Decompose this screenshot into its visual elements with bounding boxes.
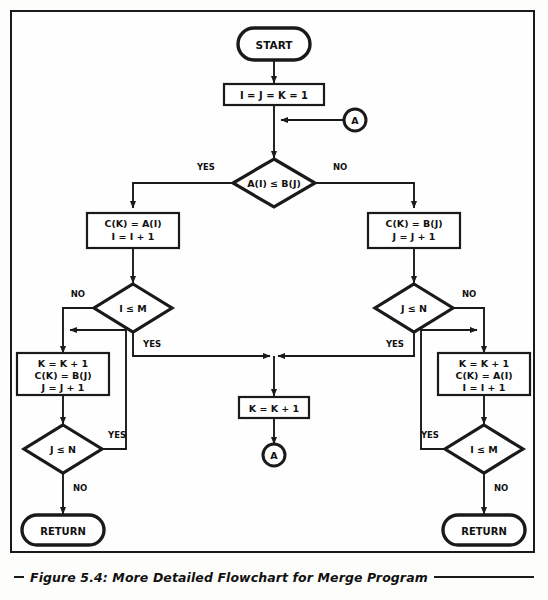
caption-rule-left — [14, 576, 24, 578]
edge-label-no-right2: NO — [494, 483, 508, 493]
init-label: I = J = K = 1 — [240, 90, 308, 101]
node-drain-left[interactable]: K = K + 1 C(K) = B(J) J = J + 1 — [17, 353, 109, 395]
edge-label-yes-left: YES — [142, 339, 161, 349]
figure-caption-bar: Figure 5.4: More Detailed Flowchart for … — [14, 566, 534, 588]
drain-left-line3: J = J + 1 — [41, 382, 85, 393]
node-start[interactable]: START — [238, 28, 310, 60]
node-init[interactable]: I = J = K = 1 — [224, 84, 324, 105]
node-return-right[interactable]: RETURN — [443, 515, 525, 545]
drain-right-line2: C(K) = A(I) — [455, 370, 512, 381]
decision-left2-label: J ≤ N — [49, 444, 76, 455]
figure-caption: Figure 5.4: More Detailed Flowchart for … — [30, 570, 428, 585]
proc-right-line2: J = J + 1 — [392, 231, 436, 242]
node-proc-right[interactable]: C(K) = B(J) J = J + 1 — [368, 213, 460, 248]
flowchart-nodes: START I = J = K = 1 A A(I) ≤ B(J) YES NO — [17, 28, 530, 545]
edge-label-yes-main: YES — [196, 162, 215, 172]
edge-label-yes-right2: YES — [420, 430, 439, 440]
edge-label-yes-left2: YES — [107, 430, 126, 440]
edge-decision-no — [314, 183, 414, 208]
drain-left-line2: C(K) = B(J) — [34, 370, 91, 381]
connector-top-label: A — [351, 115, 359, 126]
node-proc-left[interactable]: C(K) = A(I) I = I + 1 — [87, 213, 179, 248]
bump-k-label: K = K + 1 — [249, 403, 299, 414]
proc-right-line1: C(K) = B(J) — [385, 218, 442, 229]
node-connector-top[interactable]: A — [344, 109, 366, 131]
node-decision-right2[interactable]: I ≤ M — [445, 425, 523, 473]
drain-right-line1: K = K + 1 — [459, 358, 509, 369]
node-decision-left[interactable]: I ≤ M — [94, 284, 172, 332]
node-decision-right[interactable]: J ≤ N — [375, 284, 453, 332]
decision-main-label: A(I) ≤ B(J) — [247, 178, 301, 189]
edge-label-no-right: NO — [462, 289, 476, 299]
drain-right-line3: I = I + 1 — [463, 382, 506, 393]
node-return-left[interactable]: RETURN — [22, 515, 104, 545]
edge-label-yes-right: YES — [385, 339, 404, 349]
decision-right2-label: I ≤ M — [470, 444, 498, 455]
start-label: START — [256, 39, 294, 51]
node-bump-k[interactable]: K = K + 1 — [239, 397, 309, 418]
return-left-label: RETURN — [40, 526, 86, 537]
decision-right-label: J ≤ N — [400, 303, 427, 314]
edge-label-no-left: NO — [71, 289, 85, 299]
caption-rule-right — [434, 576, 534, 578]
figure-page: START I = J = K = 1 A A(I) ≤ B(J) YES NO — [0, 0, 548, 600]
edge-label-no-left2: NO — [73, 483, 87, 493]
flowchart-canvas: START I = J = K = 1 A A(I) ≤ B(J) YES NO — [0, 0, 548, 600]
return-right-label: RETURN — [461, 526, 507, 537]
proc-left-line2: I = I + 1 — [112, 231, 155, 242]
proc-left-line1: C(K) = A(I) — [104, 218, 161, 229]
node-drain-right[interactable]: K = K + 1 C(K) = A(I) I = I + 1 — [438, 353, 530, 395]
node-connector-bottom[interactable]: A — [263, 444, 285, 466]
edge-decision-yes — [133, 183, 234, 208]
decision-left-label: I ≤ M — [119, 303, 147, 314]
drain-left-line1: K = K + 1 — [38, 358, 88, 369]
node-decision-main[interactable]: A(I) ≤ B(J) — [233, 159, 315, 207]
connector-bottom-label: A — [270, 450, 278, 461]
edge-label-no-main: NO — [333, 162, 347, 172]
node-decision-left2[interactable]: J ≤ N — [24, 425, 102, 473]
